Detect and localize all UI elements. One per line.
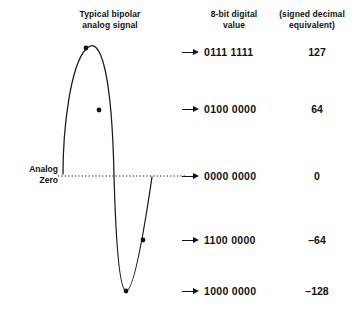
binary-value: 1100 0000 xyxy=(204,232,288,248)
bipolar-analog-to-digital-figure: Typical bipolar analog signal 8-bit digi… xyxy=(0,0,352,314)
arrow-icon xyxy=(182,239,200,241)
arrow-icon xyxy=(182,175,200,177)
analog-zero-label: Analog Zero xyxy=(2,164,58,186)
sine-wave-path xyxy=(63,46,152,291)
value-row: 1000 0000 –128 xyxy=(182,283,350,299)
decimal-value: –64 xyxy=(286,232,348,248)
value-row: 0100 0000 64 xyxy=(182,101,350,117)
sample-marker-127 xyxy=(84,46,89,51)
binary-value: 0100 0000 xyxy=(204,101,288,117)
decimal-value: 64 xyxy=(286,101,348,117)
arrow-icon xyxy=(182,51,200,53)
decimal-value: 127 xyxy=(286,44,348,60)
value-row: 1100 0000 –64 xyxy=(182,232,350,248)
value-row: 0000 0000 0 xyxy=(182,168,350,184)
binary-value: 0111 1111 xyxy=(204,44,288,60)
sample-marker-minus-128 xyxy=(124,289,129,294)
decimal-value: 0 xyxy=(286,168,348,184)
arrow-icon xyxy=(182,108,200,110)
arrow-icon xyxy=(182,290,200,292)
sample-marker-minus-64 xyxy=(141,238,146,243)
decimal-value: –128 xyxy=(286,283,348,299)
binary-value: 0000 0000 xyxy=(204,168,288,184)
sample-marker-64 xyxy=(97,108,102,113)
value-row: 0111 1111 127 xyxy=(182,44,350,60)
binary-value: 1000 0000 xyxy=(204,283,288,299)
